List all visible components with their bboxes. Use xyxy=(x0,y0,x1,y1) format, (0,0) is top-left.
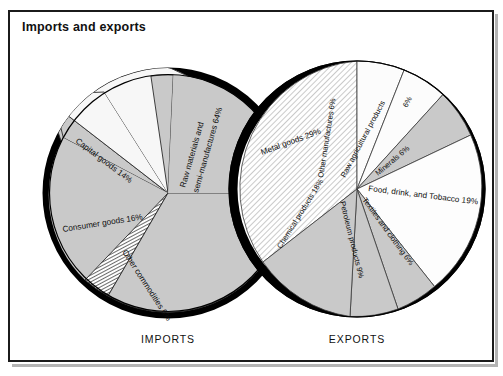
figure-container: Imports and exports xyxy=(0,0,503,376)
pie-charts-svg: Consumer goods 16% Other commodities 6% … xyxy=(0,0,503,376)
exports-pie-chart: Metal goods 29% Other manufactures 6% Ra… xyxy=(229,61,485,317)
caption-exports: EXPORTS xyxy=(329,333,385,345)
caption-imports: IMPORTS xyxy=(141,333,195,345)
